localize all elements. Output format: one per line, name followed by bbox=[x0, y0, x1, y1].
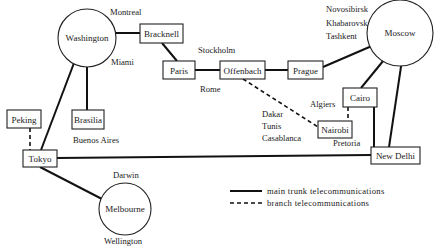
city-novosibirsk: Novosibirsk bbox=[326, 4, 369, 14]
line-moscow-newdelhi bbox=[389, 60, 402, 147]
hub-washington-label: Washington bbox=[66, 33, 109, 43]
station-paris-label: Paris bbox=[170, 66, 188, 76]
telecom-network-diagram: Washington Moscow Melbourne Bracknell Pa… bbox=[0, 0, 435, 246]
hub-washington: Washington bbox=[58, 9, 116, 67]
station-cairo: Cairo bbox=[343, 88, 377, 107]
station-peking-label: Peking bbox=[11, 115, 37, 125]
hub-melbourne-label: Melbourne bbox=[105, 204, 145, 214]
station-bracknell: Bracknell bbox=[140, 24, 183, 43]
city-khabarovsk: Khabarovsk bbox=[326, 18, 368, 28]
city-pretoria: Pretoria bbox=[333, 138, 360, 148]
station-new-delhi: New Delhi bbox=[371, 147, 420, 164]
city-rome: Rome bbox=[200, 84, 221, 94]
city-wellington: Wellington bbox=[104, 236, 143, 246]
station-tokyo-label: Tokyo bbox=[29, 154, 52, 164]
legend: main trunk telecommunications branch tel… bbox=[230, 186, 385, 208]
hub-melbourne: Melbourne bbox=[99, 183, 151, 235]
station-bracknell-label: Bracknell bbox=[144, 29, 179, 39]
hub-moscow-label: Moscow bbox=[385, 28, 416, 38]
legend-branch-label: branch telecommunications bbox=[267, 198, 370, 208]
city-darwin: Darwin bbox=[113, 170, 139, 180]
line-washington-tokyo bbox=[41, 63, 74, 150]
city-stockholm: Stockholm bbox=[198, 45, 236, 55]
city-casablanca: Casablanca bbox=[262, 133, 301, 143]
city-miami: Miami bbox=[111, 57, 135, 67]
station-prague-label: Prague bbox=[293, 66, 318, 76]
station-brasilia-label: Brasilia bbox=[74, 115, 102, 125]
line-offenbach-nairobi bbox=[243, 79, 318, 127]
station-prague: Prague bbox=[288, 61, 323, 79]
city-montreal: Montreal bbox=[110, 7, 142, 17]
station-cairo-label: Cairo bbox=[350, 93, 370, 103]
line-tokyo-melbourne bbox=[40, 167, 102, 199]
line-tokyo-newdelhi bbox=[57, 155, 371, 158]
legend-main-trunk-label: main trunk telecommunications bbox=[267, 186, 385, 196]
station-offenbach-label: Offenbach bbox=[224, 66, 262, 76]
city-buenos-aires: Buenos Aires bbox=[73, 135, 120, 145]
city-tashkent: Tashkent bbox=[326, 31, 358, 41]
station-new-delhi-label: New Delhi bbox=[376, 151, 416, 161]
city-dakar: Dakar bbox=[262, 109, 283, 119]
station-tokyo: Tokyo bbox=[23, 150, 57, 167]
station-peking: Peking bbox=[7, 110, 41, 128]
station-nairobi-label: Nairobi bbox=[321, 125, 349, 135]
station-paris: Paris bbox=[163, 61, 195, 79]
city-algiers: Algiers bbox=[310, 99, 336, 109]
hub-moscow: Moscow bbox=[367, 0, 433, 66]
station-brasilia: Brasilia bbox=[72, 110, 104, 129]
city-tunis: Tunis bbox=[262, 121, 282, 131]
station-nairobi: Nairobi bbox=[318, 121, 352, 138]
station-offenbach: Offenbach bbox=[220, 61, 265, 79]
line-bracknell-paris bbox=[162, 43, 177, 61]
